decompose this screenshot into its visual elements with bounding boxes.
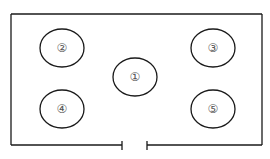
- position-2: ②: [40, 29, 84, 67]
- room-diagram: ① ② ③ ④ ⑤: [0, 0, 270, 159]
- position-1: ①: [113, 58, 157, 96]
- position-3-label: ③: [208, 41, 219, 55]
- position-1-label: ①: [130, 70, 141, 84]
- position-2-label: ②: [57, 41, 68, 55]
- position-5: ⑤: [191, 90, 235, 128]
- position-4: ④: [40, 90, 84, 128]
- position-5-label: ⑤: [208, 102, 219, 116]
- position-4-label: ④: [57, 102, 68, 116]
- position-3: ③: [191, 29, 235, 67]
